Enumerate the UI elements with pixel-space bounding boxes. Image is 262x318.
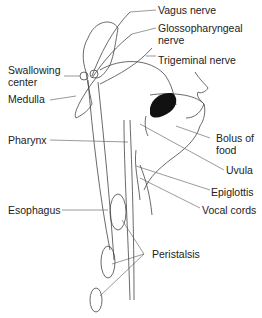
face-profile [144,72,208,190]
leader-peristalsis-3 [100,254,144,296]
peristalsis-bulge-2 [101,246,115,278]
label-pharynx: Pharynx [8,134,47,146]
leader-bolus [176,126,210,138]
label-epiglottis: Epiglottis [211,186,254,198]
epiglottis-shape [135,150,140,200]
glossopharyngeal-nerve-line [92,34,132,78]
label-uvula: Uvula [226,164,253,176]
esophagus-tube [124,120,130,300]
leader-medulla [50,96,76,100]
leader-vagus [130,10,156,12]
label-bolus-1: Bolus of [216,132,254,144]
label-peristalsis: Peristalsis [152,248,200,260]
leader-vocal-cords [140,178,200,208]
anatomy-illustration [0,0,262,318]
leader-glosso [132,28,156,34]
label-vagus-nerve: Vagus nerve [158,4,216,16]
leader-pharynx [50,140,128,142]
label-esophagus: Esophagus [8,204,61,216]
neck-back-2 [98,82,114,260]
bolus-of-food [150,93,176,118]
vagus-nerve-line [92,12,130,76]
esophagus-tube-2 [130,120,134,300]
label-swallowing-center-1: Swallowing [8,64,61,76]
trachea [140,165,152,215]
label-medulla: Medulla [8,93,45,105]
label-glossopharyngeal-nerve-2: nerve [158,34,184,46]
leader-peristalsis-2 [112,254,144,264]
brain-outline [75,22,118,118]
label-glossopharyngeal-nerve-1: Glossopharyngeal [158,22,243,34]
leader-uvula [140,124,224,170]
label-swallowing-center-2: center [8,76,37,88]
peristalsis-bulge-1 [110,194,126,230]
label-trigeminal-nerve: Trigeminal nerve [158,54,236,66]
swallowing-diagram: Vagus nerve Glossopharyngeal nerve Trige… [0,0,262,318]
label-bolus-2: food [216,144,236,156]
uvula-shape [145,116,148,136]
peristalsis-bulge-3 [90,288,102,312]
label-vocal-cords: Vocal cords [202,204,256,216]
